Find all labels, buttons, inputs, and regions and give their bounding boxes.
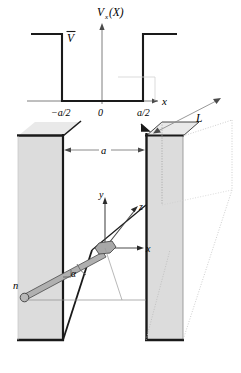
tick-label-a-over-2: a/2: [137, 107, 150, 118]
normal-vector-label: n: [13, 280, 18, 291]
normal-vector-tail-ball-icon: [20, 293, 29, 302]
gap-arrowhead-left-icon: [64, 148, 71, 153]
axis-y-label: y: [98, 189, 104, 200]
right-slab-depth-line-bottom: [183, 190, 232, 340]
axis-x-arrowhead-icon: [137, 246, 144, 251]
gap-label: a: [101, 145, 106, 156]
axis-x-label: x: [145, 243, 151, 254]
v-axis-title-group: V x (X): [97, 6, 124, 21]
v-axis-arrowhead-icon: [99, 23, 104, 30]
corner-marker-icon: [141, 124, 149, 131]
length-arrowhead-top-icon: [213, 98, 221, 104]
length-label: L: [195, 112, 202, 124]
figure-canvas: V V x (X) x −a/2 0 a/2: [0, 0, 241, 373]
ghost-outline: [118, 77, 155, 101]
slab-geometry-diagram: a L y x z: [13, 98, 232, 341]
normal-vector-projection-drop: [105, 248, 122, 300]
gap-arrowhead-right-icon: [138, 148, 145, 153]
plot-x-axis-label: x: [161, 95, 167, 107]
left-slab-front-face: [18, 136, 63, 340]
gap-dimension: a: [64, 143, 145, 156]
axis-z-label: z: [138, 201, 143, 212]
barrier-potential-label-group: V: [67, 32, 77, 45]
physics-figure: V V x (X) x −a/2 0 a/2: [0, 0, 241, 373]
right-slab-front-face: [146, 136, 183, 340]
v-axis-title-argument: (X): [109, 6, 124, 19]
tick-label-minus-a-over-2: −a/2: [51, 107, 71, 118]
barrier-potential-label: V: [67, 32, 76, 44]
potential-well-plot: V V x (X) x −a/2 0 a/2: [27, 6, 177, 118]
normal-vector-arrowhead-icon: [95, 241, 116, 254]
axis-z-arrowhead-icon: [131, 206, 138, 212]
tick-label-zero: 0: [98, 107, 103, 118]
right-slab: [145, 120, 232, 341]
left-slab: [17, 121, 146, 341]
right-slab-top-face: [146, 122, 199, 136]
